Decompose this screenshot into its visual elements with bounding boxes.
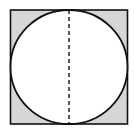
inscribed-circle-diagram: [0, 0, 134, 133]
